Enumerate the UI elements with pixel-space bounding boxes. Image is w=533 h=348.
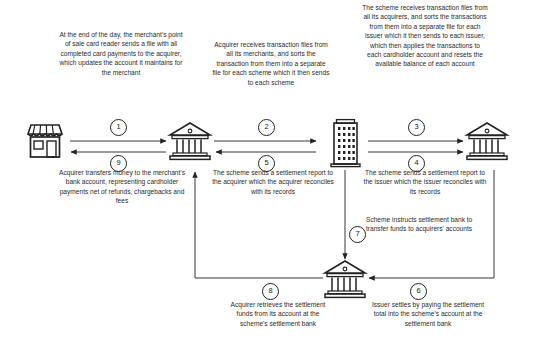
step-number-6: 6 <box>410 283 427 300</box>
storefront-icon <box>22 118 68 168</box>
step-text-5: The scheme sends a settlement report to … <box>210 168 336 196</box>
diagram-canvas: 1 2 3 4 5 6 7 8 9 At the end of the day,… <box>0 0 533 348</box>
bank-building-icon-issuer <box>463 118 511 170</box>
step-number-3: 3 <box>408 119 425 136</box>
step-text-7: Scheme instructs settlement bank to tran… <box>366 215 476 234</box>
step-number-2: 2 <box>258 119 275 136</box>
step-text-9: Acquirer transfers money to the merchant… <box>58 168 186 206</box>
step-number-7: 7 <box>349 226 366 243</box>
step-number-1: 1 <box>110 119 127 136</box>
step-text-1: At the end of the day, the merchant's po… <box>56 30 186 77</box>
step-text-6: Issuer settles by paying the settlement … <box>366 300 490 328</box>
step-text-3: The scheme receives transaction files fr… <box>362 3 488 69</box>
office-tower-icon <box>323 114 367 174</box>
bank-building-icon-acquirer <box>166 118 214 170</box>
step-text-8: Acquirer retrieves the settlement funds … <box>222 300 334 328</box>
step-number-8: 8 <box>262 283 279 300</box>
step-text-4: The scheme sends a settlement report to … <box>362 168 488 196</box>
step-text-2: Acquirer receives transaction files from… <box>212 40 330 87</box>
